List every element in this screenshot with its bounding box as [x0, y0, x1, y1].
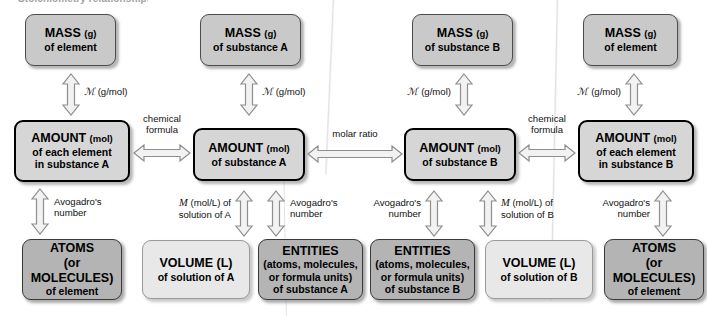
node-subtitle: of substance B [425, 41, 500, 53]
node-entities-substance-a[interactable]: ENTITIES (atoms, molecules, or formula u… [258, 239, 363, 300]
node-subtitle: (atoms, molecules, [375, 258, 470, 270]
arrow-molar-mass-1 [62, 73, 80, 116]
arrow-avogadro-4 [654, 190, 672, 237]
label-chemical-formula-a: chemical formula [128, 113, 196, 135]
node-mass-element-b[interactable]: MASS (g) of element [583, 14, 678, 66]
node-title-2: (or MOLECULES) [609, 256, 699, 286]
arrow-chemical-formula-a [133, 144, 191, 162]
node-subtitle: of substance B [422, 156, 497, 168]
node-title: AMOUNT (mol) [31, 131, 113, 146]
label-molar-mass-3: ℳ (g/mol) [383, 86, 451, 98]
node-amount-element-in-a[interactable]: AMOUNT (mol) of each element in substanc… [14, 120, 130, 182]
label-molar-mass-1: ℳ (g/mol) [84, 86, 128, 98]
node-title: ATOMS [632, 241, 676, 256]
node-subtitle-2: or formula units) [269, 271, 352, 283]
node-amount-substance-a[interactable]: AMOUNT (mol) of substance A [193, 128, 305, 181]
label-molar-mass-4: ℳ (g/mol) [553, 86, 621, 98]
node-title: VOLUME (L) [160, 256, 233, 271]
node-subtitle-2: in substance A [35, 158, 109, 170]
node-title: ENTITIES [394, 244, 450, 259]
node-subtitle-3: of substance A [273, 283, 348, 295]
node-amount-substance-b[interactable]: AMOUNT (mol) of substance B [404, 128, 516, 181]
node-title: VOLUME (L) [503, 256, 576, 271]
label-molar-mass-2: ℳ (g/mol) [262, 86, 306, 98]
node-subtitle-2: or formula units) [381, 271, 464, 283]
arrow-molar-mass-4 [625, 73, 643, 116]
node-subtitle: of substance A [213, 41, 288, 53]
node-amount-element-in-b[interactable]: AMOUNT (mol) of each element in substanc… [578, 120, 694, 182]
arrow-avogadro-3 [425, 190, 443, 237]
label-chemical-formula-b: chemical formula [513, 113, 581, 135]
node-title: ATOMS [50, 241, 94, 256]
node-subtitle: of solution of A [158, 271, 235, 283]
node-subtitle-3: of substance B [385, 283, 460, 295]
node-title: AMOUNT (mol) [595, 131, 677, 146]
label-avogadro-3: Avogadro's number [356, 197, 421, 219]
node-subtitle: of each element [32, 146, 111, 158]
label-avogadro-1: Avogadro's number [54, 196, 102, 218]
node-title: ENTITIES [282, 244, 338, 259]
node-subtitle: of each element [596, 146, 675, 158]
node-subtitle: of element [604, 41, 657, 53]
arrow-chemical-formula-b [518, 144, 576, 162]
node-subtitle-2: in substance B [599, 158, 674, 170]
label-molarity-b: M (mol/L) of solution of B [501, 197, 554, 220]
label-molar-ratio: molar ratio [311, 128, 399, 139]
node-mass-element-a[interactable]: MASS (g) of element [25, 14, 116, 66]
node-atoms-element-a[interactable]: ATOMS (or MOLECULES) of element [22, 239, 122, 300]
node-title: MASS (g) [45, 26, 97, 41]
node-subtitle: of element [46, 285, 99, 297]
label-avogadro-2: Avogadro's number [290, 197, 338, 219]
arrow-molarity-b [479, 190, 497, 237]
node-atoms-element-b[interactable]: ATOMS (or MOLECULES) of element [604, 239, 704, 300]
node-title: MASS (g) [605, 26, 657, 41]
node-subtitle: of element [44, 41, 97, 53]
node-subtitle: of solution of B [501, 271, 578, 283]
node-mass-substance-a[interactable]: MASS (g) of substance A [200, 14, 301, 66]
node-subtitle: of element [628, 285, 681, 297]
node-title: AMOUNT (mol) [419, 141, 501, 156]
figure-caption-cropped: Stoichiometry relationships [18, 0, 148, 4]
arrow-molar-mass-3 [455, 73, 473, 116]
arrow-molar-mass-2 [240, 73, 258, 116]
stoichiometry-diagram: Stoichiometry relationships MASS (g) of … [0, 0, 707, 316]
arrow-molarity-a [235, 190, 253, 237]
node-title: AMOUNT (mol) [208, 141, 290, 156]
node-volume-solution-a[interactable]: VOLUME (L) of solution of A [142, 240, 250, 299]
node-subtitle: of substance A [212, 156, 287, 168]
scan-crease-artifact [324, 0, 335, 175]
node-entities-substance-b[interactable]: ENTITIES (atoms, molecules, or formula u… [370, 239, 475, 300]
arrow-avogadro-2 [267, 190, 285, 237]
node-title: MASS (g) [225, 26, 277, 41]
node-subtitle: (atoms, molecules, [263, 258, 358, 270]
node-title: MASS (g) [437, 26, 489, 41]
node-volume-solution-b[interactable]: VOLUME (L) of solution of B [485, 240, 593, 299]
node-mass-substance-b[interactable]: MASS (g) of substance B [412, 14, 513, 66]
arrow-molar-ratio [307, 145, 403, 163]
label-molarity-a: M (mol/L) of solution of A [145, 197, 231, 220]
node-title-2: (or MOLECULES) [27, 256, 117, 286]
arrow-avogadro-1 [31, 188, 49, 235]
label-avogadro-4: Avogadro's number [584, 197, 650, 219]
